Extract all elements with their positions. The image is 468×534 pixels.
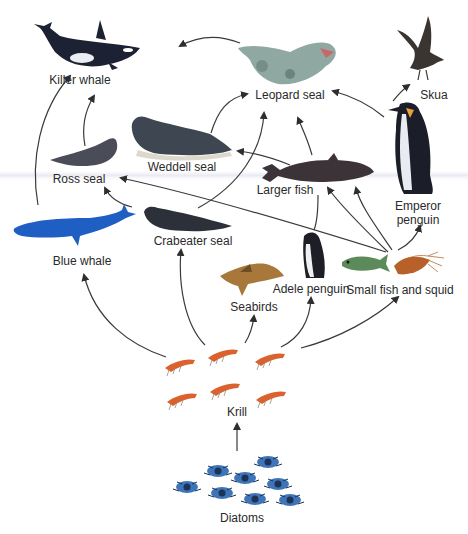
diatom-icon	[208, 487, 236, 499]
diatom-icon	[254, 456, 282, 468]
larger-fish-icon	[262, 153, 374, 182]
arrow-krill-smallfish	[301, 297, 398, 348]
krill-icon	[208, 349, 238, 366]
arrow-leopard-killerwhale	[180, 37, 240, 46]
diatom-icon	[276, 494, 304, 506]
arrow-krill-adele	[281, 298, 311, 347]
crabeater-seal-icon	[144, 207, 232, 231]
line-largerfish-adele	[314, 195, 318, 230]
diatom-icon	[241, 493, 269, 505]
label-krill: Krill	[227, 405, 247, 419]
squid-icon	[394, 252, 444, 274]
label-small-fish-and-squid: Small fish and squid	[346, 283, 453, 297]
krill-icon	[255, 353, 285, 370]
arrow-emperor-skua	[393, 85, 409, 101]
label-blue-whale: Blue whale	[53, 254, 112, 268]
krill-icon	[165, 359, 195, 376]
killer-whale-icon	[34, 20, 140, 70]
label-skua: Skua	[420, 88, 447, 102]
leopard-seal-icon	[238, 42, 336, 84]
diatom-icon	[173, 481, 201, 493]
arrow-smallfish-largerfish-b	[328, 188, 388, 252]
label-adele-penguin: Adele penguin	[273, 282, 350, 296]
label-weddell-seal: Weddell seal	[148, 160, 216, 174]
krill-group-icon	[165, 349, 286, 410]
arrow-krill-seabirds	[245, 316, 254, 343]
label-diatoms: Diatoms	[220, 511, 264, 525]
arrow-krill-crabeater	[180, 250, 205, 345]
label-emperor-line2: penguin	[395, 213, 441, 227]
krill-icon	[167, 393, 197, 410]
diatom-icon	[264, 478, 292, 490]
ross-seal-icon	[50, 138, 117, 166]
arrow-emperor-leopard	[333, 91, 384, 117]
emperor-penguin-icon	[388, 102, 433, 194]
diatom-icon	[231, 472, 259, 484]
label-ross-seal: Ross seal	[53, 172, 106, 186]
label-larger-fish: Larger fish	[257, 183, 314, 197]
arrow-ross-killerwhale	[84, 96, 94, 146]
diatoms-group-icon	[173, 456, 304, 506]
skua-icon	[397, 16, 444, 80]
arrow-largerfish-leopard	[298, 118, 312, 155]
label-leopard-seal: Leopard seal	[255, 88, 324, 102]
blue-whale-icon	[14, 204, 136, 246]
arrow-weddell-leopard	[211, 94, 247, 133]
label-seabirds: Seabirds	[230, 300, 277, 314]
diatom-icon	[204, 465, 232, 477]
label-crabeater-seal: Crabeater seal	[154, 234, 233, 248]
weddell-seal-icon	[132, 117, 232, 161]
krill-icon	[210, 383, 240, 400]
label-emperor-penguin: Emperor penguin	[395, 199, 441, 227]
label-emperor-line1: Emperor	[395, 199, 441, 213]
krill-icon	[256, 391, 286, 408]
arrow-krill-bluewhale	[84, 275, 166, 357]
arrow-smallfish-largerfish-a	[356, 188, 392, 250]
arrow-largerfish-weddell	[238, 151, 290, 165]
food-web-diagram: Killer whale Leopard seal Skua Weddell s…	[0, 0, 468, 534]
small-fish-icon	[342, 254, 390, 272]
arrow-smallfish-emperor	[398, 226, 420, 250]
arrow-crabeater-ross	[105, 188, 132, 207]
label-killer-whale: Killer whale	[49, 73, 110, 87]
adele-penguin-icon	[303, 233, 325, 278]
